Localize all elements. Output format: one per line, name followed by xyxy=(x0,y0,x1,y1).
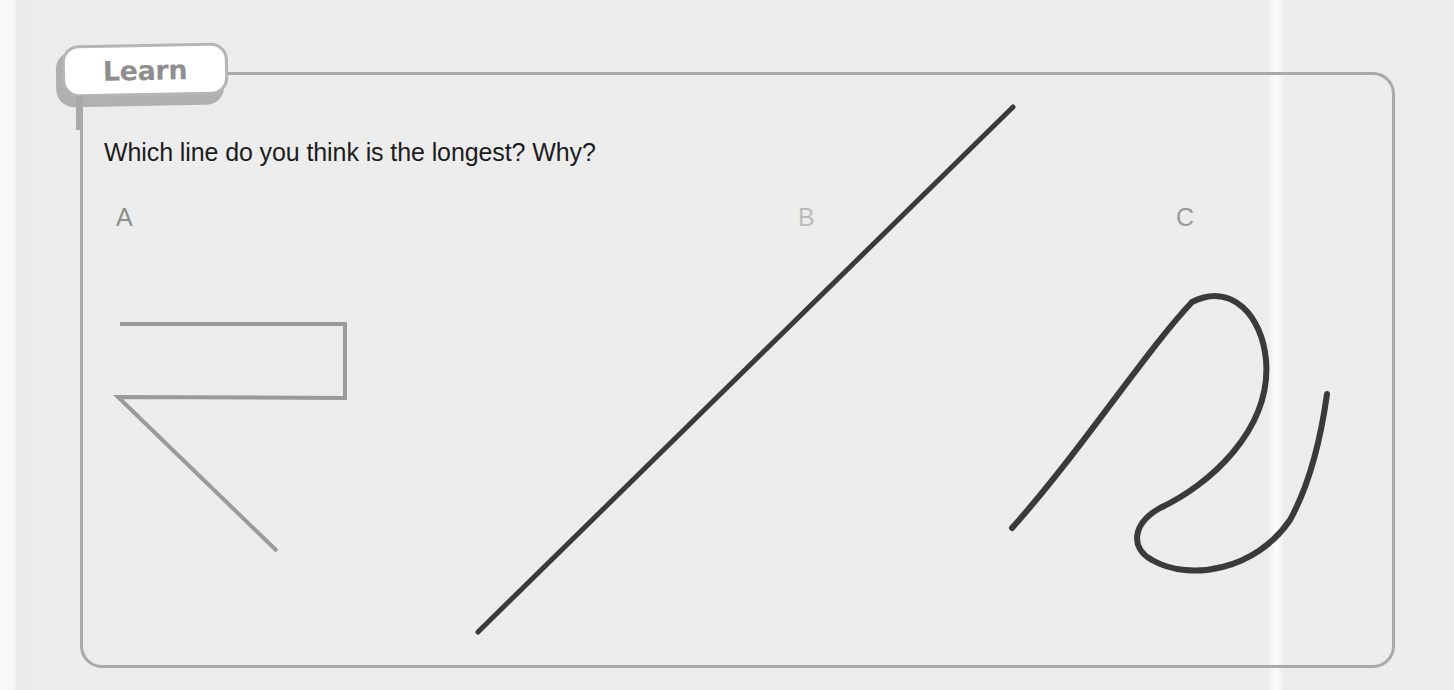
item-label-b: B xyxy=(798,203,815,232)
question-prompt: Which line do you think is the longest? … xyxy=(104,138,596,167)
learn-tab[interactable]: Learn xyxy=(56,44,228,104)
page-left-gutter xyxy=(0,0,30,690)
learn-tab-face: Learn xyxy=(62,42,229,97)
worksheet-page: Learn Which line do you think is the lon… xyxy=(0,0,1454,690)
learn-tab-stem xyxy=(76,96,83,130)
learn-tab-label: Learn xyxy=(103,54,188,87)
item-label-a: A xyxy=(116,203,133,232)
item-label-c: C xyxy=(1176,203,1194,232)
